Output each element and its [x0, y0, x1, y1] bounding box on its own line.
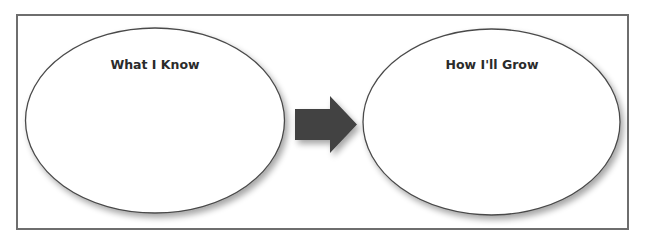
what-i-know-label: What I Know: [110, 57, 199, 72]
what-i-know-ellipse: [26, 28, 285, 213]
right-arrow-icon: [295, 96, 357, 153]
how-ill-grow-label: How I'll Grow: [446, 57, 539, 72]
diagram-canvas: [0, 0, 645, 240]
